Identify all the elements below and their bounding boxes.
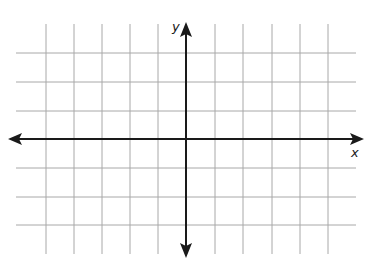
coordinate-plane: x y bbox=[0, 0, 376, 265]
y-axis-label: y bbox=[171, 19, 180, 34]
x-axis-label: x bbox=[350, 145, 359, 160]
